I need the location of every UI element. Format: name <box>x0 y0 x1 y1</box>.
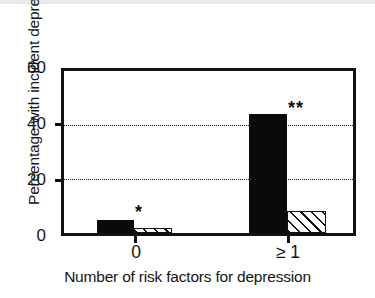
x-axis-title: Number of risk factors for depression <box>0 268 375 286</box>
gridline-40 <box>64 125 353 126</box>
y-tick-label-20: 20 <box>6 171 46 188</box>
gridline-20 <box>64 179 353 180</box>
bar-solid-group-ge1[interactable] <box>249 114 287 233</box>
significance-marker-group-0: * <box>135 207 143 217</box>
bar-hatched-group-0[interactable] <box>134 228 172 233</box>
significance-marker-group-ge1: ** <box>288 103 304 113</box>
y-tick-label-0: 0 <box>6 227 46 244</box>
bar-hatched-group-ge1[interactable] <box>287 211 326 233</box>
y-tick-label-60: 60 <box>6 59 46 76</box>
bar-solid-group-0[interactable] <box>97 220 134 234</box>
x-category-label-0: 0 <box>106 243 166 262</box>
plot-area: * ** <box>61 68 356 236</box>
bar-chart-figure: Percentage with incident depression 60 4… <box>0 0 375 298</box>
y-tick-label-40: 40 <box>6 115 46 132</box>
x-category-label-ge1: ≥ 1 <box>258 243 318 262</box>
